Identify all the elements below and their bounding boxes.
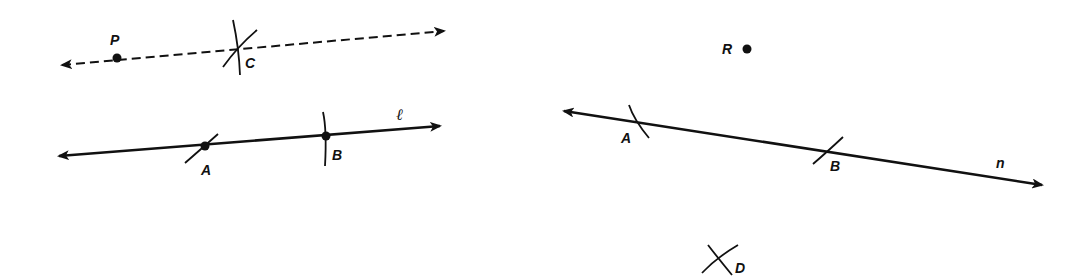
point-D-label: D	[735, 260, 745, 276]
point-R-dot	[743, 45, 752, 54]
point-R-label: R	[722, 41, 733, 57]
point-A-dot	[201, 142, 210, 151]
left-figure: P C ℓ A B	[59, 20, 444, 178]
point-B-label: B	[332, 147, 342, 163]
line-n	[564, 111, 1042, 185]
point-P-dot	[113, 54, 122, 63]
point-P-label: P	[110, 32, 120, 48]
point-D-arc-marks	[702, 245, 738, 275]
line-l	[59, 126, 440, 156]
point-A-label: A	[200, 162, 211, 178]
right-figure: R n A B D	[564, 41, 1042, 276]
line-l-label: ℓ	[396, 105, 403, 124]
point-B-dot	[322, 132, 331, 141]
line-n-label: n	[996, 155, 1005, 171]
point-C-label: C	[245, 55, 256, 71]
construction-diagram: P C ℓ A B R n A B D	[0, 0, 1084, 279]
point-B-label-n: B	[830, 158, 840, 174]
point-A-label-n: A	[620, 130, 631, 146]
